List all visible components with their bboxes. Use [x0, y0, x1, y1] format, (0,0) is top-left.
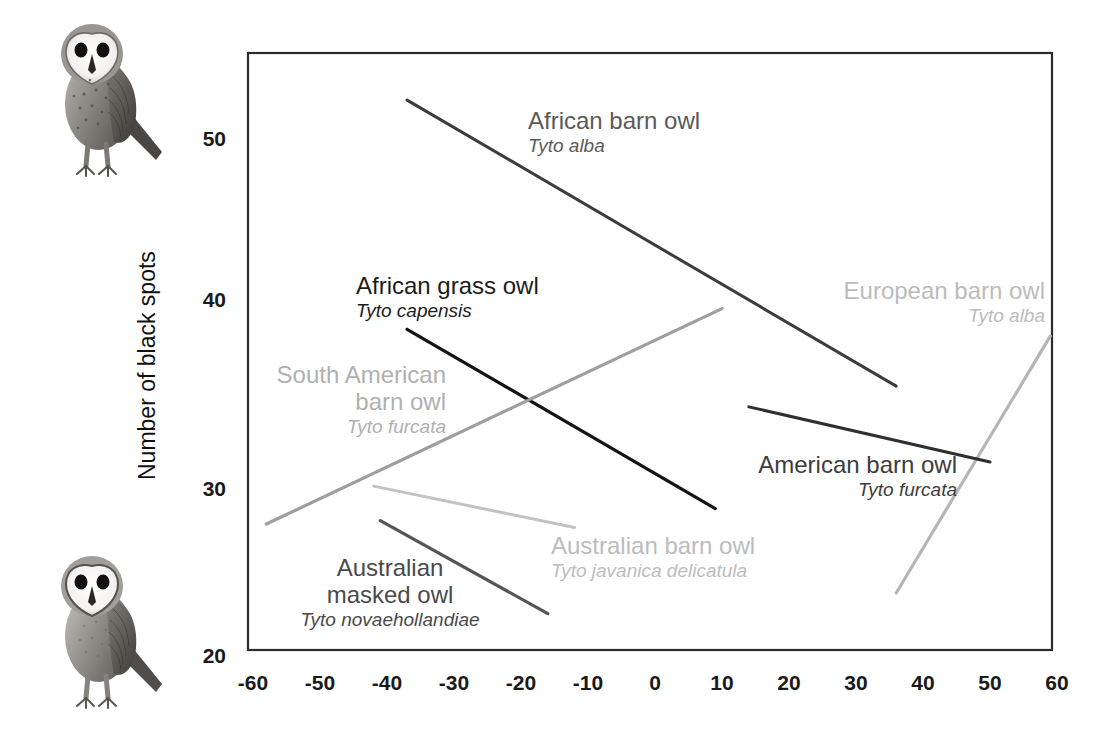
annotation-common-name: American barn owl — [660, 452, 957, 479]
annotation-common-name: African grass owl — [356, 273, 539, 300]
y-axis-title: Number of black spots — [134, 251, 160, 480]
annotation-common-name: Australian barn owl — [551, 533, 755, 560]
annotation-american-barn-owl: American barn owl Tyto furcata — [660, 452, 957, 500]
x-tick-50: 50 — [978, 671, 1001, 694]
x-tick--50: -50 — [305, 671, 335, 694]
annotation-scientific-name: Tyto novaehollandiae — [256, 609, 524, 630]
x-tick-20: 20 — [777, 671, 800, 694]
y-tick-40: 40 — [203, 288, 226, 311]
annotation-scientific-name: Tyto capensis — [356, 300, 539, 321]
x-tick--10: -10 — [573, 671, 603, 694]
annotation-common-name: European barn owl — [760, 278, 1045, 305]
regression-line-australian-barn-owl — [374, 486, 575, 527]
x-tick--40: -40 — [372, 671, 402, 694]
annotation-australian-masked-owl: Australian masked owl Tyto novaehollandi… — [256, 555, 524, 630]
annotation-scientific-name: Tyto furcata — [660, 479, 957, 500]
y-tick-50: 50 — [203, 127, 226, 150]
annotation-african-barn-owl: African barn owl Tyto alba — [528, 108, 700, 156]
annotation-common-name-line2: masked owl — [256, 582, 524, 609]
y-tick-30: 30 — [203, 477, 226, 500]
annotation-australian-barn-owl: Australian barn owl Tyto javanica delica… — [551, 533, 755, 581]
x-tick-10: 10 — [710, 671, 733, 694]
x-tick--60: -60 — [238, 671, 268, 694]
x-tick-60: 60 — [1045, 671, 1068, 694]
owl-spot-regression-figure: Number of black spots 50 40 30 20 -60 -5… — [0, 0, 1118, 740]
annotation-common-name-line1: South American — [196, 362, 446, 389]
x-tick-0: 0 — [649, 671, 661, 694]
x-tick--20: -20 — [506, 671, 536, 694]
annotation-common-name-line2: barn owl — [196, 389, 446, 416]
x-tick-30: 30 — [844, 671, 867, 694]
annotation-scientific-name: Tyto javanica delicatula — [551, 560, 755, 581]
annotation-african-grass-owl: African grass owl Tyto capensis — [356, 273, 539, 321]
annotation-south-american-barn-owl: South American barn owl Tyto furcata — [196, 362, 446, 437]
annotation-european-barn-owl: European barn owl Tyto alba — [760, 278, 1045, 326]
annotation-common-name-line1: Australian — [256, 555, 524, 582]
x-tick--30: -30 — [439, 671, 469, 694]
y-tick-20: 20 — [203, 644, 226, 667]
annotation-scientific-name: Tyto furcata — [196, 416, 446, 437]
annotation-scientific-name: Tyto alba — [528, 135, 700, 156]
x-tick-40: 40 — [911, 671, 934, 694]
annotation-common-name: African barn owl — [528, 108, 700, 135]
annotation-scientific-name: Tyto alba — [760, 305, 1045, 326]
